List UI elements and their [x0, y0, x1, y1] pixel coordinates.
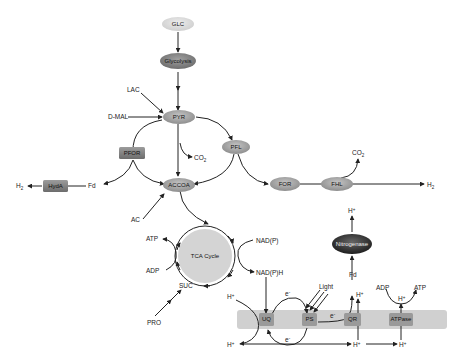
label-hplus-qr-bottom: H+ — [353, 341, 361, 349]
label-e-top: e- — [285, 290, 291, 298]
label-lac: LAC — [127, 86, 140, 93]
svg-text:UQ: UQ — [262, 316, 271, 322]
label-hplus-qr-top: H+ — [356, 291, 364, 299]
node-ps: PS — [302, 313, 317, 326]
node-uq: UQ — [259, 313, 274, 326]
node-atpase: ATPase — [389, 313, 413, 326]
svg-text:GLC: GLC — [172, 21, 185, 27]
label-nadph: NAD(P)H — [256, 269, 283, 277]
metabolic-pathway-diagram: GLC Glycolysis PYR PFOR PFL ACCOA HydA F… — [0, 0, 452, 362]
label-hplus-left-top: H+ — [227, 293, 235, 301]
node-pfor: PFOR — [119, 147, 145, 159]
node-qr: QR — [344, 313, 361, 326]
label-h2-left: H2 — [16, 182, 24, 191]
label-atp-tca: ATP — [146, 235, 158, 242]
svg-text:Nitrogenase: Nitrogenase — [336, 241, 369, 247]
label-co2-pyr: CO2 — [194, 154, 207, 163]
node-tca-cycle: TCA Cycle — [178, 229, 232, 283]
node-glycolysis: Glycolysis — [160, 53, 196, 69]
label-hplus-left-bottom: H+ — [227, 341, 235, 349]
node-nitrogenase: Nitrogenase — [332, 234, 372, 254]
label-ac: AC — [131, 216, 140, 223]
label-adp-atpase: ADP — [376, 284, 389, 291]
node-for: FOR — [270, 177, 300, 191]
svg-text:PFOR: PFOR — [124, 150, 141, 156]
svg-text:Glycolysis: Glycolysis — [164, 58, 191, 64]
svg-text:ACCOA: ACCOA — [168, 182, 189, 188]
svg-text:ATPase: ATPase — [391, 316, 413, 322]
label-nadp: NAD(P) — [256, 237, 278, 245]
label-light: Light — [319, 283, 333, 291]
node-pfl: PFL — [222, 140, 250, 154]
svg-text:TCA Cycle: TCA Cycle — [191, 253, 220, 259]
label-hplus-atpase-bottom: H+ — [399, 341, 407, 349]
svg-text:PYR: PYR — [173, 114, 186, 120]
label-fd-right: Fd — [349, 271, 357, 278]
node-glc: GLC — [162, 17, 194, 31]
svg-text:FOR: FOR — [279, 181, 292, 187]
label-hplus-nitrogenase: H+ — [348, 207, 356, 215]
label-dmal: D-MAL — [108, 113, 129, 120]
node-hyda: HydA — [43, 180, 68, 192]
label-fd-left: Fd — [88, 182, 96, 189]
label-e-bottom: e- — [285, 336, 291, 344]
label-adp-tca: ADP — [146, 267, 159, 274]
node-accoa: ACCOA — [163, 178, 195, 192]
node-fhl: FHL — [321, 177, 353, 191]
svg-text:QR: QR — [348, 316, 358, 322]
svg-text:HydA: HydA — [48, 183, 63, 189]
svg-text:PFL: PFL — [230, 144, 242, 150]
label-atp-atpase: ATP — [414, 284, 426, 291]
label-pro: PRO — [147, 319, 161, 326]
label-co2-fhl: CO2 — [352, 149, 365, 158]
label-suc: SUC — [179, 282, 193, 289]
svg-text:PS: PS — [305, 316, 313, 322]
label-h2-right: H2 — [427, 181, 435, 190]
label-hplus-atpase-top: H+ — [398, 295, 406, 303]
svg-text:FHL: FHL — [331, 181, 343, 187]
node-pyr: PYR — [163, 110, 195, 124]
